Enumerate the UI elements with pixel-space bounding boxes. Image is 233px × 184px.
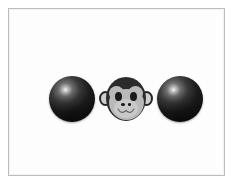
- sphere-left: [49, 76, 95, 122]
- monkey-mouth: [117, 108, 135, 116]
- monkey-nostril-right: [128, 103, 132, 106]
- monkey-head: [106, 77, 146, 121]
- monkey-face: [99, 75, 153, 123]
- picture-frame: [8, 8, 225, 176]
- object-row: [9, 9, 224, 175]
- sphere-right: [157, 76, 203, 122]
- monkey-mouth-icon: [117, 108, 135, 116]
- monkey-nostril-left: [121, 103, 125, 106]
- image-canvas: [0, 0, 233, 184]
- monkey-eye-left: [115, 92, 122, 101]
- monkey-eye-right: [130, 92, 137, 101]
